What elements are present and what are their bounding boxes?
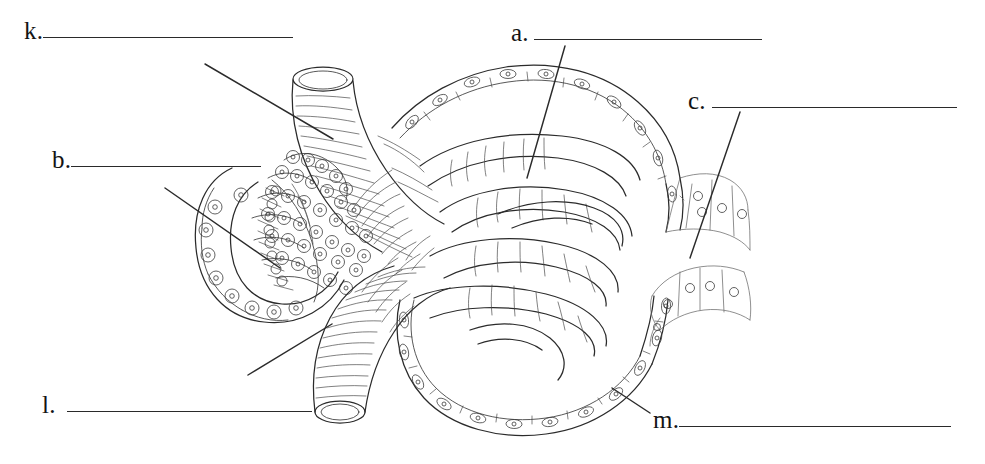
- leader-line-c: [690, 112, 740, 258]
- afferent-arteriole: [292, 67, 444, 257]
- leader-line-k: [205, 64, 333, 139]
- label-letter-l: l.: [42, 392, 56, 417]
- leader-line-b: [165, 188, 280, 268]
- answer-blank-b[interactable]: [71, 166, 261, 167]
- leader-line-m: [612, 388, 650, 413]
- label-a[interactable]: a.: [511, 20, 762, 45]
- label-letter-a: a.: [511, 20, 529, 45]
- proximal-convoluted-tubule-lower: [650, 266, 751, 346]
- label-m[interactable]: m.: [653, 407, 951, 432]
- label-letter-k: k.: [24, 18, 43, 43]
- answer-blank-m[interactable]: [679, 426, 951, 427]
- label-letter-c: c.: [688, 88, 706, 113]
- glomerular-capillary-tuft: [352, 134, 640, 380]
- label-k[interactable]: k.: [24, 18, 293, 43]
- proximal-convoluted-tubule-upper: [666, 174, 750, 250]
- label-letter-b: b.: [52, 147, 71, 172]
- label-b[interactable]: b.: [52, 147, 261, 172]
- answer-blank-a[interactable]: [534, 39, 762, 40]
- answer-blank-k[interactable]: [43, 37, 293, 38]
- worksheet-page: k. b. l. a. c. m.: [0, 0, 985, 464]
- label-l[interactable]: l.: [42, 392, 312, 417]
- efferent-arteriole: [314, 266, 450, 423]
- answer-blank-l[interactable]: [67, 411, 312, 412]
- distal-tubule-macula-densa: [195, 168, 344, 323]
- answer-blank-c[interactable]: [712, 107, 957, 108]
- label-c[interactable]: c.: [688, 88, 957, 113]
- juxtaglomerular-cells: [252, 151, 373, 295]
- label-letter-m: m.: [653, 407, 679, 432]
- bowmans-capsule-parietal-layer: [392, 65, 683, 435]
